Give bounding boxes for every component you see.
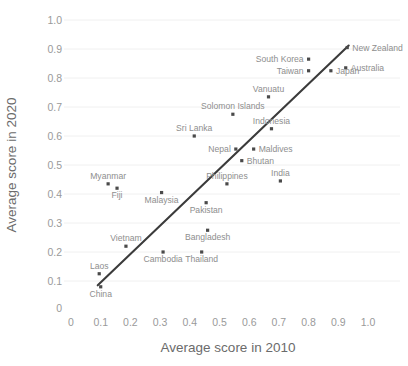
x-tick-label: 0.2 <box>123 316 138 328</box>
x-tick-label: 0.8 <box>301 316 316 328</box>
point-marker <box>270 127 273 130</box>
point-marker <box>252 147 255 150</box>
y-tick-label: 0.2 <box>47 246 62 258</box>
x-axis-title: Average score in 2010 <box>161 340 296 355</box>
data-point: Bangladesh <box>185 229 231 243</box>
data-point: Vietnam <box>110 233 141 248</box>
y-tick-label: 0.9 <box>47 43 62 55</box>
point-label: Bhutan <box>247 156 274 166</box>
point-label: Sri Lanka <box>176 123 213 133</box>
point-label: Philippines <box>206 171 248 181</box>
point-marker <box>267 95 270 98</box>
point-marker <box>98 272 101 275</box>
data-point: Pakistan <box>190 201 223 215</box>
data-point: Malaysia <box>145 191 179 205</box>
data-point: South Korea <box>256 54 310 64</box>
point-label: Cambodia <box>143 254 182 264</box>
point-label: Taiwan <box>277 66 304 76</box>
data-point: Nepal <box>208 144 237 154</box>
point-label: Solomon Islands <box>201 101 265 111</box>
y-tick-label: 0.8 <box>47 72 62 84</box>
point-label: Bangladesh <box>185 232 231 242</box>
data-point: China <box>89 285 112 299</box>
data-point: Japan <box>329 66 359 76</box>
x-tick-label: 0.5 <box>212 316 227 328</box>
point-label: Thailand <box>185 254 218 264</box>
point-marker <box>234 147 237 150</box>
point-marker <box>307 69 310 72</box>
chart-canvas: 00.10.20.30.40.50.60.70.80.91.0 00.10.20… <box>0 0 408 366</box>
y-tick-label: 1.0 <box>47 14 62 26</box>
x-tick-label: 1.0 <box>361 316 376 328</box>
point-marker <box>307 58 310 61</box>
point-label: Vanuatu <box>253 84 285 94</box>
point-label: Nepal <box>208 144 231 154</box>
data-point: Laos <box>90 261 109 276</box>
point-label: Malaysia <box>145 195 179 205</box>
x-axis-tick-labels: 00.10.20.30.40.50.60.70.80.91.0 <box>68 316 375 328</box>
y-tick-label: 0.7 <box>47 101 62 113</box>
point-marker <box>279 179 282 182</box>
point-label: Japan <box>336 66 360 76</box>
point-label: Laos <box>90 261 109 271</box>
point-marker <box>231 113 234 116</box>
y-axis-tick-labels: 00.10.20.30.40.50.60.70.80.91.0 <box>47 14 62 314</box>
point-marker <box>225 182 228 185</box>
y-tick-label: 0 <box>56 302 62 314</box>
y-tick-label: 0.5 <box>47 159 62 171</box>
y-axis-title: Average score in 2020 <box>4 98 19 233</box>
point-label: India <box>271 168 290 178</box>
data-point: Indonesia <box>253 116 290 131</box>
y-tick-label: 0.3 <box>47 217 62 229</box>
point-label: Vietnam <box>110 233 141 243</box>
data-point: Philippines <box>206 171 248 186</box>
data-point: Solomon Islands <box>201 101 265 116</box>
x-tick-label: 0.1 <box>93 316 108 328</box>
x-tick-label: 0.4 <box>182 316 197 328</box>
data-point: Vanuatu <box>253 84 285 99</box>
y-tick-label: 0.4 <box>47 188 62 200</box>
point-label: Pakistan <box>190 205 223 215</box>
data-point: Taiwan <box>277 66 310 76</box>
data-point: New Zealand <box>346 43 403 53</box>
y-tick-label: 0.6 <box>47 130 62 142</box>
x-tick-label: 0.7 <box>272 316 287 328</box>
point-label: New Zealand <box>352 43 403 53</box>
point-label: China <box>89 289 112 299</box>
point-marker <box>346 46 349 49</box>
x-tick-label: 0.9 <box>331 316 346 328</box>
data-point: Myanmar <box>90 171 126 186</box>
data-point: Bhutan <box>240 156 274 166</box>
point-label: South Korea <box>256 54 304 64</box>
point-marker <box>240 159 243 162</box>
x-tick-label: 0.6 <box>242 316 257 328</box>
scatter-chart: 00.10.20.30.40.50.60.70.80.91.0 00.10.20… <box>0 0 408 366</box>
point-label: Indonesia <box>253 116 290 126</box>
data-point: Maldives <box>252 144 293 154</box>
data-point: Fiji <box>112 187 123 201</box>
point-marker <box>107 182 110 185</box>
x-tick-label: 0.3 <box>153 316 168 328</box>
data-point: India <box>271 168 290 183</box>
point-marker <box>193 134 196 137</box>
x-tick-label: 0 <box>68 316 74 328</box>
point-marker <box>329 69 332 72</box>
data-point: Sri Lanka <box>176 123 213 138</box>
point-label: Fiji <box>112 190 123 200</box>
point-marker <box>124 245 127 248</box>
y-tick-label: 0.1 <box>47 275 62 287</box>
point-label: Maldives <box>259 144 293 154</box>
point-label: Myanmar <box>90 171 126 181</box>
data-points-group: New ZealandSouth KoreaAustraliaJapanTaiw… <box>89 43 403 299</box>
